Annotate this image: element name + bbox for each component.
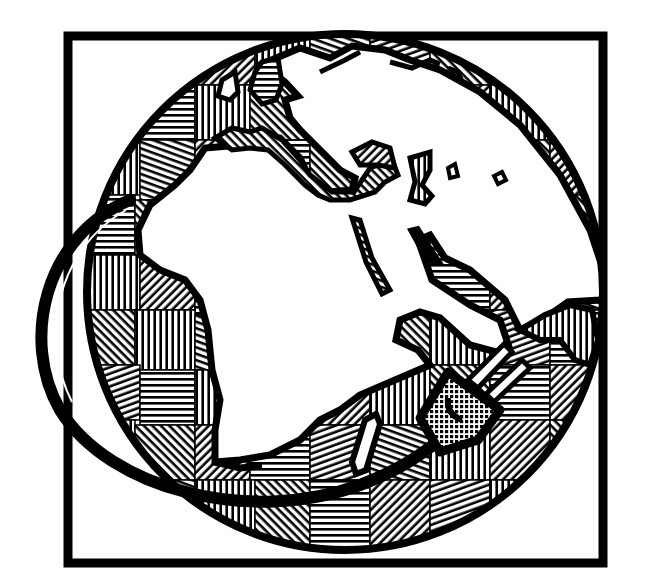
globe-plug-illustration xyxy=(0,0,645,587)
balkhash-lake xyxy=(494,172,506,184)
aral-sea xyxy=(448,164,458,178)
